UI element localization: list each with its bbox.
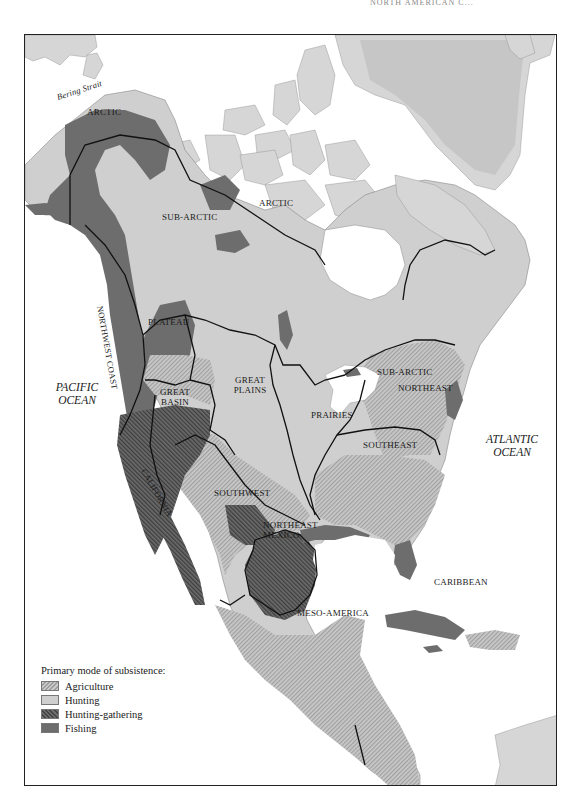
label-northeast-mexico: NORTHEAST MEXICO <box>263 520 313 540</box>
legend-item-agriculture: Agriculture <box>41 679 166 693</box>
label-great-basin: GREAT BASIN <box>155 387 195 407</box>
legend-label: Fishing <box>65 723 97 734</box>
greenland-ice <box>360 40 525 175</box>
legend-label: Hunting-gathering <box>65 709 143 720</box>
label-sub-arctic-east: SUB-ARCTIC <box>377 367 433 377</box>
label-southeast: SOUTHEAST <box>363 440 417 450</box>
agriculture-caribbean-east <box>465 630 520 650</box>
agriculture-swatch-icon <box>41 681 59 691</box>
cuba <box>385 610 465 640</box>
label-arctic-east: ARCTIC <box>259 198 293 208</box>
gulf-of-mexico <box>313 535 395 605</box>
hunting-swatch-icon <box>41 695 59 705</box>
legend-item-hunting: Hunting <box>41 693 166 707</box>
label-atlantic-ocean: ATLANTIC OCEAN <box>477 433 547 459</box>
legend-item-fishing: Fishing <box>41 721 166 735</box>
fishing-swatch-icon <box>41 723 59 733</box>
legend-item-hunting-gathering: Hunting-gathering <box>41 707 166 721</box>
label-great-plains: GREAT PLAINS <box>230 375 270 395</box>
label-caribbean: CARIBBEAN <box>434 577 488 587</box>
legend-title: Primary mode of subsistence: <box>41 665 166 676</box>
label-arctic-west: ARCTIC <box>87 107 121 117</box>
running-head: NORTH AMERICAN C... <box>370 0 570 8</box>
label-pacific-ocean: PACIFIC OCEAN <box>47 381 107 407</box>
jamaica <box>423 645 443 653</box>
label-plateau: PLATEAU <box>148 317 189 327</box>
hunting-gathering-baja <box>155 505 205 605</box>
south-america <box>495 715 557 786</box>
legend-label: Agriculture <box>65 681 113 692</box>
hunting-gathering-swatch-icon <box>41 709 59 719</box>
label-southwest: SOUTHWEST <box>214 488 270 498</box>
siberia-peninsula <box>83 53 103 79</box>
label-northeast: NORTHEAST <box>398 383 453 393</box>
label-prairies: PRAIRIES <box>311 410 353 420</box>
label-sub-arctic-west: SUB-ARCTIC <box>162 212 218 222</box>
agriculture-mesoamerica <box>215 605 420 786</box>
legend-label: Hunting <box>65 695 99 706</box>
florida-tip <box>393 540 417 580</box>
map-legend: Primary mode of subsistence: Agriculture… <box>41 665 166 735</box>
map-frame: Bering Strait ARCTIC SUB-ARCTIC ARCTIC S… <box>24 34 557 786</box>
label-meso-america: MESO-AMERICA <box>297 608 369 618</box>
